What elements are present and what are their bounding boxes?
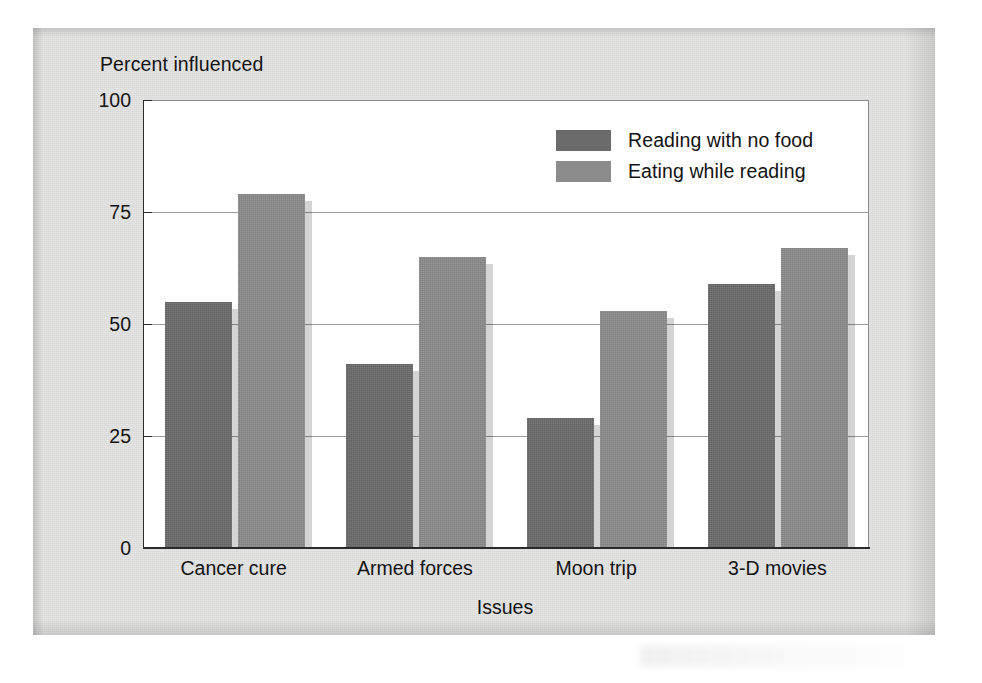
y-axis-tick-labels: 0255075100: [79, 100, 131, 548]
legend-swatch-eating-while-reading: [556, 161, 611, 182]
bar-3-d-movies-reading-with-no-food: [708, 284, 775, 548]
bar-3-d-movies-eating-while-reading: [781, 248, 848, 548]
bar-cancer-cure-eating-while-reading: [238, 194, 305, 548]
x-category-label-armed-forces: Armed forces: [357, 557, 473, 580]
bar-texture: [600, 311, 667, 548]
x-category-label-3-d-movies: 3-D movies: [728, 557, 827, 580]
bar-texture: [527, 418, 594, 548]
y-tick-label-50: 50: [79, 313, 131, 336]
y-tick-label-100: 100: [79, 89, 131, 112]
y-tick-label-75: 75: [79, 201, 131, 224]
legend-item-reading-with-no-food: Reading with no food: [556, 125, 813, 156]
page-edge-shadow-top: [33, 28, 935, 37]
legend-label-eating-while-reading: Eating while reading: [628, 160, 806, 183]
x-category-label-moon-trip: Moon trip: [555, 557, 636, 580]
page-edge-shadow-bottom: [33, 620, 935, 635]
bar-texture: [346, 364, 413, 548]
plot-area: Reading with no food Eating while readin…: [143, 100, 869, 548]
y-tick-mark-100: [143, 100, 152, 101]
bar-texture: [419, 257, 486, 548]
y-tick-mark-50: [143, 324, 152, 325]
x-axis-line: [143, 547, 870, 549]
scanned-page: Percent influenced Reading with no food …: [0, 0, 982, 683]
y-tick-label-0: 0: [79, 537, 131, 560]
bar-armed-forces-eating-while-reading: [419, 257, 486, 548]
legend-label-reading-with-no-food: Reading with no food: [628, 129, 813, 152]
page-smudge: [640, 645, 940, 667]
bar-texture: [708, 284, 775, 548]
bar-texture: [165, 302, 232, 548]
bar-texture: [781, 248, 848, 548]
bar-armed-forces-reading-with-no-food: [346, 364, 413, 548]
y-tick-label-25: 25: [79, 425, 131, 448]
bar-texture: [238, 194, 305, 548]
page-edge-shadow-right: [905, 28, 935, 635]
legend: Reading with no food Eating while readin…: [556, 125, 813, 187]
page-edge-shadow-left: [33, 28, 43, 635]
bar-cancer-cure-reading-with-no-food: [165, 302, 232, 548]
bar-moon-trip-reading-with-no-food: [527, 418, 594, 548]
plot-top-border: [144, 100, 869, 101]
y-axis-title: Percent influenced: [100, 53, 263, 76]
y-tick-mark-75: [143, 212, 152, 213]
legend-swatch-reading-with-no-food: [556, 130, 611, 151]
bar-moon-trip-eating-while-reading: [600, 311, 667, 548]
y-tick-mark-0: [143, 548, 152, 549]
legend-item-eating-while-reading: Eating while reading: [556, 156, 813, 187]
x-category-label-cancer-cure: Cancer cure: [181, 557, 287, 580]
x-axis-title: Issues: [477, 596, 533, 619]
y-tick-mark-25: [143, 436, 152, 437]
